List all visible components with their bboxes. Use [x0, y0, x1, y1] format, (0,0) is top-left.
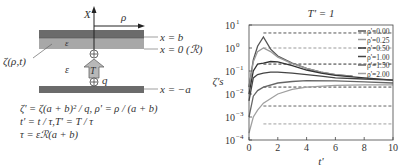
x-tick-label: 6 [333, 142, 338, 153]
equation-scaling-time: t' = t / τ,T' = T / τ [20, 117, 93, 128]
chart-title: T' = 1 [308, 7, 335, 19]
x-tick-label: 0 [247, 142, 252, 153]
equation-scaling-zeta-rho: ζ' = ζ(a + b)² / q, ρ' = ρ / (a + b) [20, 104, 157, 115]
y-tick-label: 10 [225, 66, 235, 77]
legend-entry: ρ'=2.00 [367, 70, 390, 79]
x-tick-label: 2 [275, 142, 280, 153]
top-electrode-bar [39, 30, 144, 38]
y-tick-label: 10 [225, 112, 235, 123]
svg-text:0: 0 [236, 41, 240, 49]
series-curve [249, 85, 393, 133]
equation-tau: τ = εℛ(a + b) [20, 130, 78, 141]
line-label-x-0: x = 0 (ℛ) [160, 44, 202, 55]
x-tick-label: 8 [362, 142, 367, 153]
x-axis-title: t' [318, 155, 324, 167]
rho-axis-label: ρ [121, 12, 126, 23]
chart-panel: T' = 1 024681010110010−110−210−310−4 ρ'=… [205, 0, 402, 168]
line-label-x-minus-a: x = −a [160, 84, 191, 95]
y-tick-label: 10 [225, 43, 235, 54]
log-line-chart: T' = 1 024681010110010−110−210−310−4 ρ'=… [205, 0, 402, 168]
series-curve [249, 37, 353, 87]
dielectric-layer [39, 38, 144, 49]
y-tick-label: 10 [225, 89, 235, 100]
charge-q-label: q [102, 75, 108, 86]
y-tick-label: 10 [225, 135, 235, 146]
tension-label: T [90, 66, 96, 76]
y-axis-title: ζ's [212, 75, 223, 88]
rho-axis-arrowhead-icon [138, 24, 145, 29]
bottom-electrode-bar [39, 86, 144, 93]
chart-legend: ρ'=0.00ρ'=0.25ρ'=0.50ρ'=1.00ρ'=1.50ρ'=2.… [358, 27, 390, 79]
line-label-x-b: x = b [160, 32, 183, 43]
svg-text:1: 1 [236, 18, 240, 26]
x-tick-label: 10 [388, 142, 398, 153]
svg-text:−4: −4 [236, 133, 244, 141]
gap-epsilon-label: ε [65, 65, 69, 75]
svg-text:−1: −1 [236, 64, 244, 72]
x-tick-label: 4 [304, 142, 309, 153]
schematic-diagram: X ρ ζ(ρ,t) ε ε T q x = b x = 0 (ℛ) x = −… [0, 0, 205, 168]
svg-text:−3: −3 [236, 110, 244, 118]
layer-epsilon-label: ε [65, 39, 69, 48]
x-axis-label: X [84, 9, 91, 20]
y-tick-label: 10 [225, 20, 235, 31]
zeta-label: ζ(ρ,t) [3, 56, 26, 67]
x-axis-arrowhead-icon [92, 6, 97, 13]
svg-text:−2: −2 [236, 87, 244, 95]
